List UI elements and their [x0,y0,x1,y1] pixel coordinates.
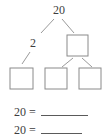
equation-2-answer-blank[interactable] [41,133,82,134]
equation-row-2: 20 = [0,119,109,137]
branch-root-to-right [62,19,74,33]
bond-root-value: 20 [48,4,70,16]
bond-box-level3-1[interactable] [10,68,33,89]
branch-box-to-box2 [62,58,73,67]
bond-box-level3-2[interactable] [45,68,67,89]
branch-root-to-left [41,19,54,33]
bond-box-level2-right[interactable] [67,35,88,56]
branch-box-to-box3 [82,58,92,67]
number-bond-worksheet: 20 2 20 = 20 = [0,0,109,138]
bond-level2-left-value: 2 [25,37,41,49]
branch-two-to-box1 [22,52,30,64]
equation-row-1: 20 = [0,101,109,119]
equation-1-left: 20 = [14,105,36,119]
equation-2-left: 20 = [14,123,36,137]
equation-list: 20 = 20 = [0,101,109,137]
bond-box-level3-3[interactable] [79,68,101,89]
equation-1-answer-blank[interactable] [41,115,88,116]
